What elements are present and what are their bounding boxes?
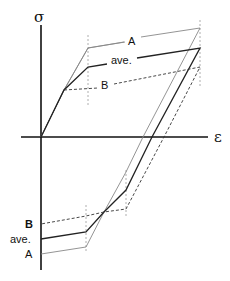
curve-b-right bbox=[41, 67, 200, 224]
label-b-top: B bbox=[101, 79, 108, 91]
curve-ave bbox=[41, 64, 107, 137]
label-b-bottom: B bbox=[25, 218, 33, 230]
sigma-label: σ bbox=[34, 8, 44, 26]
curve-ave-right bbox=[41, 48, 200, 239]
label-a-bottom: A bbox=[25, 248, 33, 260]
curve-b bbox=[64, 88, 98, 90]
label-a-top: A bbox=[128, 35, 136, 47]
stress-strain-diagram: σ ε A ave. B B ave. A bbox=[0, 0, 230, 281]
epsilon-label: ε bbox=[214, 128, 222, 146]
label-ave-bottom: ave. bbox=[10, 233, 31, 245]
label-ave-top: ave. bbox=[111, 54, 132, 66]
